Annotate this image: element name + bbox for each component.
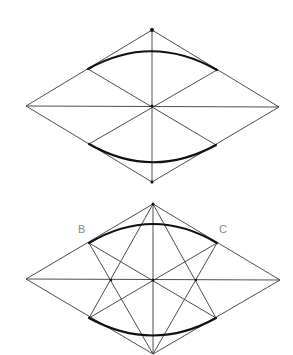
geometry-diagram: B C	[0, 0, 293, 355]
top-vertex-point	[150, 28, 154, 32]
bottom-arc	[89, 318, 216, 336]
top-vertex-point	[152, 203, 155, 206]
top-arc	[88, 51, 217, 70]
top-to-bottom-left-line	[89, 204, 153, 318]
bottom-arc	[89, 144, 216, 162]
rhombus-diagram-bottom: B C	[26, 203, 280, 355]
inner-left-point	[110, 279, 112, 281]
rhombus-diagram-top	[26, 28, 279, 184]
label-b: B	[78, 223, 85, 235]
bottom-to-top-left-line	[89, 243, 153, 354]
inner-right-point	[195, 279, 197, 281]
bottom-to-top-right-line	[153, 243, 217, 354]
center-point	[152, 279, 155, 282]
center-point	[151, 105, 154, 108]
bottom-vertex-point	[150, 180, 153, 183]
label-c: C	[219, 223, 227, 235]
